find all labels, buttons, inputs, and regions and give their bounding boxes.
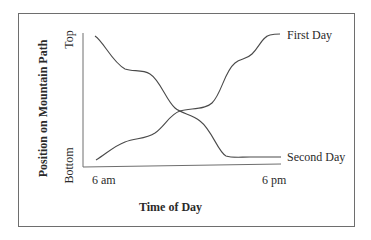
x-axis-title: Time of Day [139,200,202,215]
first-day-line [96,34,280,160]
x-tick-6am: 6 am [92,173,116,188]
x-tick-6pm: 6 pm [262,173,286,188]
first-day-label: First Day [287,28,332,43]
y-axis-title: Position on Mountain Path [36,38,51,180]
y-tick-top: Top [62,26,77,54]
second-day-line [95,36,281,157]
y-tick-bottom: Bottom [62,145,77,187]
x-axis [83,164,281,167]
second-day-label: Second Day [287,150,345,165]
